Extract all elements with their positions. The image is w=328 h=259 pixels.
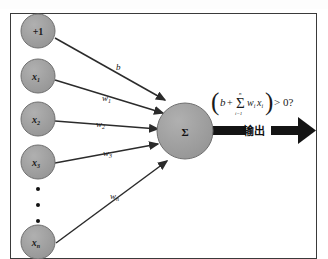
summation-node-label: Σ (181, 126, 188, 138)
input-node-circle (21, 225, 55, 259)
formula-plus: + (227, 97, 233, 108)
subscript: 1 (37, 77, 40, 83)
activation-formula: (b+Σni=1wixi)> 0? (211, 88, 293, 116)
subscript: 2 (36, 120, 40, 126)
subscript: 3 (108, 153, 112, 159)
ellipsis-dot (36, 219, 40, 223)
formula-open-paren: ( (211, 88, 219, 116)
formula-b-term: b (220, 96, 226, 108)
formula-x-term: xi (256, 97, 263, 109)
input-node-x1[interactable]: x1 (21, 59, 55, 93)
edge-x1 (55, 80, 163, 113)
edge-x2 (55, 121, 158, 129)
subscript: n (116, 196, 119, 202)
summation-node[interactable]: Σ (157, 103, 213, 159)
input-node-xn[interactable]: xn (21, 225, 55, 259)
weight-label-b: b (116, 62, 121, 72)
weight-label-w3: w3 (103, 148, 112, 159)
subscript: 2 (102, 124, 105, 130)
subscript: 3 (36, 163, 40, 169)
formula-sigma: Σ (236, 95, 245, 111)
input-node-circle (21, 145, 55, 179)
formula-close-paren: ) (265, 88, 273, 116)
subscript: i (261, 103, 263, 109)
input-node-circle (21, 59, 55, 93)
weight-label-w1: w1 (102, 93, 111, 104)
weight-labels: bw1w2w3wn (96, 62, 121, 202)
subscript: 1 (108, 98, 111, 104)
formula-w-term: wi (247, 97, 256, 109)
input-node-bias-label: +1 (33, 26, 44, 37)
subscript: i (254, 103, 256, 109)
ellipsis-dot (36, 187, 40, 191)
ellipsis-dots (36, 187, 40, 223)
edge-bias (55, 38, 165, 100)
input-node-x2[interactable]: x2 (21, 102, 55, 136)
weight-label-w2: w2 (96, 119, 105, 130)
input-node-x3[interactable]: x3 (21, 145, 55, 179)
formula-sum-lower: i=1 (235, 111, 242, 116)
input-node-bias[interactable]: +1 (21, 14, 55, 48)
ellipsis-dot (36, 203, 40, 207)
edge-xn (56, 161, 167, 243)
input-edges (55, 38, 167, 243)
output-arrowhead (298, 117, 316, 144)
weight-label-wn: wn (110, 191, 119, 202)
input-node-circle (21, 102, 55, 136)
output-label: 输出 (243, 124, 265, 138)
formula-comparison: > 0? (274, 96, 293, 108)
